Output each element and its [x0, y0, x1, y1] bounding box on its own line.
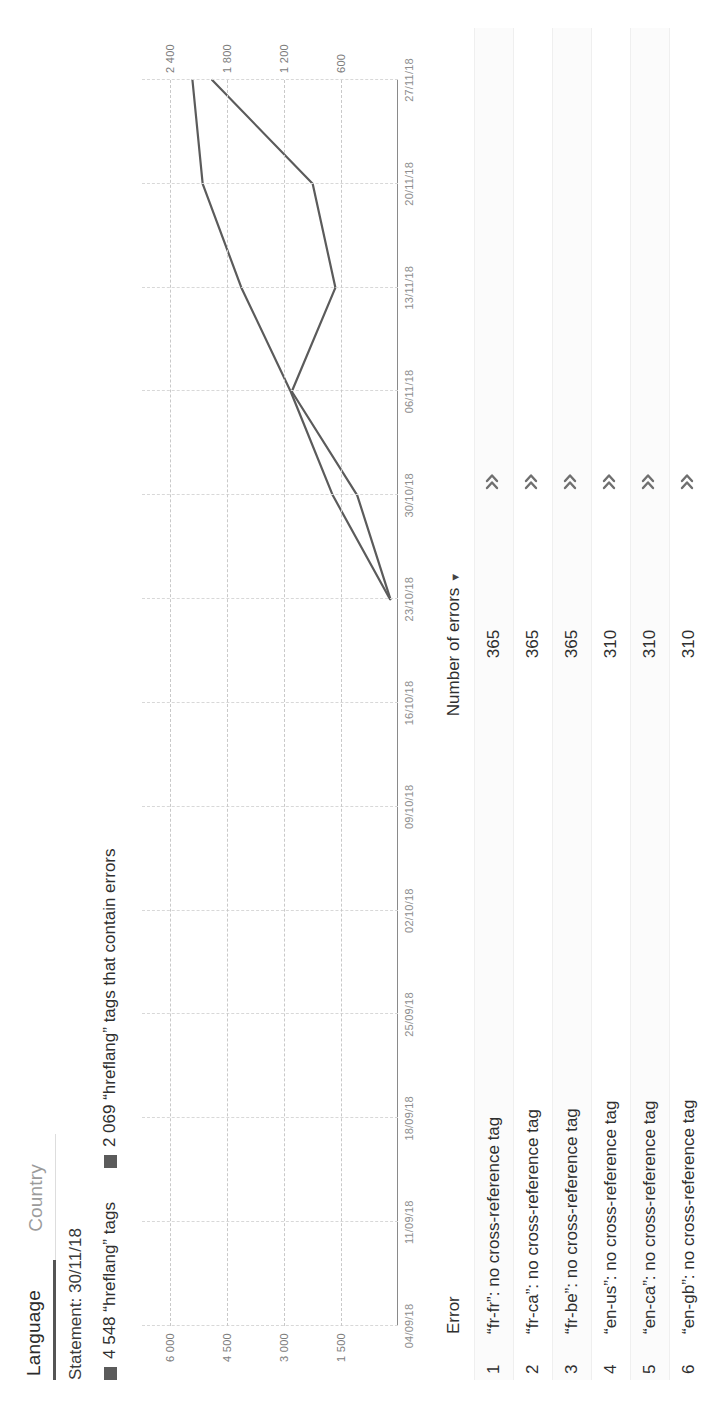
chart-x-tick-label: 23/10/18	[403, 577, 415, 621]
chart-vertical-gridline	[142, 1325, 398, 1326]
chart-plot-area: 04/09/1811/09/1818/09/1825/09/1802/10/18…	[142, 80, 398, 1326]
row-number-of-errors: 365	[523, 514, 543, 774]
chart-x-tick-label: 30/10/18	[403, 473, 415, 517]
row-number-of-errors: 310	[679, 514, 699, 774]
column-header-number-of-errors-label: Number of errors	[444, 588, 463, 716]
table-header-row: Error Number of errors▼	[438, 28, 474, 1380]
chart-vertical-gridline	[142, 1221, 398, 1222]
chart-legend: 4 548 “hreflang” tags 2 069 “hreflang” t…	[100, 814, 120, 1380]
chart-vertical-gridline	[142, 287, 398, 288]
chart-y-right-tick-label: 1 800	[221, 44, 233, 73]
table-row[interactable]: 4“en-us”: no cross-reference tag310	[591, 28, 630, 1380]
row-index: 5	[640, 1334, 660, 1380]
chart-vertical-gridline	[142, 391, 398, 392]
chevron-double-right-icon[interactable]	[563, 472, 577, 490]
chart-horizontal-gridline	[170, 80, 171, 1326]
chart-x-tick-label: 09/10/18	[403, 785, 415, 829]
sort-descending-icon[interactable]: ▼	[449, 572, 461, 583]
chart-vertical-gridline	[142, 702, 398, 703]
chevron-double-right-icon[interactable]	[641, 472, 655, 490]
tab-bar: Language Country	[14, 1134, 56, 1380]
tab-country-label: Country	[25, 1164, 46, 1232]
chart-y-right-tick-label: 600	[335, 54, 347, 73]
row-details-action[interactable]	[640, 28, 660, 514]
tab-country[interactable]: Country	[21, 1134, 56, 1260]
line-chart: 04/09/1811/09/1818/09/1825/09/1802/10/18…	[134, 28, 424, 1380]
chart-vertical-gridline	[142, 1014, 398, 1015]
report-page: Language Country Statement: 30/11/18 4 5…	[0, 0, 710, 1406]
chart-vertical-gridline	[142, 598, 398, 599]
chart-y-right-tick-label: 1 200	[278, 44, 290, 73]
table-row[interactable]: 1“fr-fr”: no cross-reference tag365	[474, 28, 513, 1380]
legend-label-total-tags: 4 548 “hreflang” tags	[100, 1202, 120, 1359]
row-number-of-errors: 310	[601, 514, 621, 774]
row-index: 1	[484, 1334, 504, 1380]
row-error-label: “fr-be”: no cross-reference tag	[562, 774, 582, 1334]
tab-language-label: Language	[23, 1290, 44, 1376]
chevron-double-right-icon[interactable]	[680, 472, 694, 490]
chart-y-right-tick-label: 2 400	[164, 44, 176, 73]
chart-vertical-gridline	[142, 910, 398, 911]
statement-date: Statement: 30/11/18	[66, 1228, 86, 1380]
chart-series-line-1	[192, 80, 390, 599]
row-details-action[interactable]	[484, 28, 504, 514]
chart-x-tick-label: 11/09/18	[403, 1200, 415, 1244]
rotated-page-wrapper: Language Country Statement: 30/11/18 4 5…	[0, 0, 710, 1406]
row-error-label: “en-gb”: no cross-reference tag	[679, 774, 699, 1334]
row-index: 6	[679, 1334, 699, 1380]
chart-y-left-tick-label: 4 500	[221, 1333, 233, 1362]
row-details-action[interactable]	[601, 28, 621, 514]
table-body: 1“fr-fr”: no cross-reference tag3652“fr-…	[474, 28, 708, 1380]
chart-x-tick-label: 25/09/18	[403, 992, 415, 1036]
row-error-label: “en-us”: no cross-reference tag	[601, 774, 621, 1334]
row-number-of-errors: 365	[562, 514, 582, 774]
row-details-action[interactable]	[679, 28, 699, 514]
chart-series-layer	[142, 80, 398, 1326]
tab-language[interactable]: Language	[19, 1260, 56, 1380]
chart-x-tick-label: 16/10/18	[403, 681, 415, 725]
legend-swatch-total-tags	[104, 1367, 117, 1380]
legend-item-error-tags[interactable]: 2 069 “hreflang” tags that contain error…	[100, 848, 120, 1168]
chart-x-tick-label: 06/11/18	[403, 370, 415, 414]
row-index: 2	[523, 1334, 543, 1380]
chart-horizontal-gridline	[227, 80, 228, 1326]
chart-vertical-gridline	[142, 183, 398, 184]
chevron-double-right-icon[interactable]	[602, 472, 616, 490]
chart-horizontal-gridline	[284, 80, 285, 1326]
chart-x-tick-label: 20/11/18	[403, 162, 415, 206]
legend-item-total-tags[interactable]: 4 548 “hreflang” tags	[100, 1202, 120, 1380]
chart-vertical-gridline	[142, 1117, 398, 1118]
chart-horizontal-gridline	[341, 80, 342, 1326]
row-error-label: “fr-fr”: no cross-reference tag	[484, 774, 504, 1334]
chart-vertical-gridline	[142, 806, 398, 807]
errors-table: Error Number of errors▼ 1“fr-fr”: no cro…	[438, 28, 708, 1380]
chart-y-left-tick-label: 6 000	[164, 1333, 176, 1362]
table-row[interactable]: 6“en-gb”: no cross-reference tag310	[669, 28, 708, 1380]
chart-x-tick-label: 18/09/18	[403, 1096, 415, 1140]
legend-swatch-error-tags	[104, 1155, 117, 1168]
row-number-of-errors: 365	[484, 514, 504, 774]
table-row[interactable]: 2“fr-ca”: no cross-reference tag365	[513, 28, 552, 1380]
chart-vertical-gridline	[142, 79, 398, 80]
chart-x-tick-label: 02/10/18	[403, 888, 415, 932]
chart-x-tick-label: 27/11/18	[403, 58, 415, 102]
row-error-label: “en-ca”: no cross-reference tag	[640, 774, 660, 1334]
row-number-of-errors: 310	[640, 514, 660, 774]
table-row[interactable]: 5“en-ca”: no cross-reference tag310	[630, 28, 669, 1380]
chart-vertical-gridline	[142, 494, 398, 495]
column-header-error[interactable]: Error	[444, 774, 464, 1334]
chevron-double-right-icon[interactable]	[524, 472, 538, 490]
table-row[interactable]: 3“fr-be”: no cross-reference tag365	[552, 28, 591, 1380]
chart-x-tick-label: 04/09/18	[403, 1304, 415, 1348]
chevron-double-right-icon[interactable]	[485, 472, 499, 490]
chart-series-line-2	[212, 80, 390, 599]
column-header-number-of-errors[interactable]: Number of errors▼	[444, 514, 464, 774]
row-index: 3	[562, 1334, 582, 1380]
row-details-action[interactable]	[562, 28, 582, 514]
row-details-action[interactable]	[523, 28, 543, 514]
chart-x-tick-label: 13/11/18	[403, 266, 415, 310]
row-index: 4	[601, 1334, 621, 1380]
chart-y-left-tick-label: 1 500	[335, 1333, 347, 1362]
row-error-label: “fr-ca”: no cross-reference tag	[523, 774, 543, 1334]
legend-label-error-tags: 2 069 “hreflang” tags that contain error…	[100, 848, 120, 1147]
